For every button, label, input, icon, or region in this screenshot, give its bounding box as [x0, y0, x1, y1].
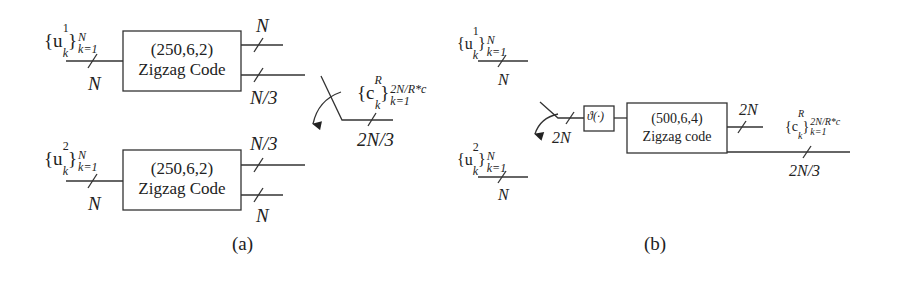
interleaver-label: ϑ(·): [587, 110, 604, 122]
output-set-label-a: {cRk}2N/R*ck=1: [357, 82, 426, 107]
encoder-name: Zigzag code: [627, 128, 727, 146]
output-width-label-a: 2N/3: [357, 130, 394, 149]
output-set-label-b: {cRk}2N/R*ck=1: [785, 117, 840, 137]
output-lower-width-a-bottom: N: [256, 206, 269, 225]
encoder-params: (250,6,2): [123, 40, 241, 60]
input-width-label-a-top: N: [88, 74, 101, 93]
encoder-name: Zigzag Code: [123, 60, 241, 80]
encoder-text-b: (500,6,4) Zigzag code: [627, 110, 727, 146]
output-lower-width-a-top: N/3: [250, 88, 277, 107]
switch-width-label-b: 2N: [552, 130, 571, 146]
input2-set-label-b: {u2k}Nk=1: [457, 149, 506, 174]
input-set-label-a-bottom: {u2k}Nk=1: [44, 148, 98, 173]
encoder-name: Zigzag Code: [123, 179, 241, 199]
caption-b: (b): [644, 234, 666, 253]
encoder-params: (250,6,2): [123, 159, 241, 179]
input-set-label-a-top: {u1k}Nk=1: [44, 30, 98, 55]
output-upper-width-b: 2N: [739, 102, 758, 118]
output-upper-width-a-bottom: N/3: [250, 134, 277, 153]
encoder-text-a-top: (250,6,2) Zigzag Code: [123, 40, 241, 80]
output-upper-width-a-top: N: [256, 16, 269, 35]
input2-width-label-b: N: [498, 187, 509, 203]
caption-a: (a): [232, 234, 253, 253]
encoder-text-a-bottom: (250,6,2) Zigzag Code: [123, 159, 241, 199]
encoder-params: (500,6,4): [627, 110, 727, 128]
input-width-label-a-bottom: N: [88, 194, 101, 213]
input1-set-label-b: {u1k}Nk=1: [457, 33, 506, 58]
output-lower-width-b: 2N/3: [789, 163, 820, 179]
input1-width-label-b: N: [498, 72, 509, 88]
